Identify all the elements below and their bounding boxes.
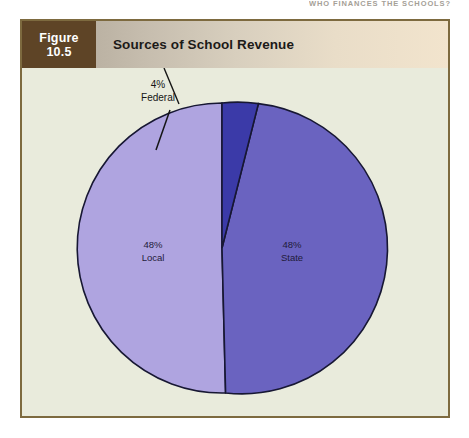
state-value-label: 48% <box>282 239 302 250</box>
figure-number-tag: Figure 10.5 <box>22 21 96 68</box>
state-name-label: State <box>281 252 303 263</box>
figure-tag-number: 10.5 <box>46 45 71 59</box>
figure-title-bar: Sources of School Revenue <box>96 21 448 68</box>
figure-header: Figure 10.5 Sources of School Revenue <box>22 21 448 68</box>
local-value-label: 48% <box>143 239 163 250</box>
running-head: WHO FINANCES THE SCHOOLS? <box>309 0 451 6</box>
figure-title: Sources of School Revenue <box>113 37 294 52</box>
local-name-label: Local <box>142 252 165 263</box>
federal-leader-line <box>164 68 179 104</box>
figure-tag-word: Figure <box>39 31 78 45</box>
chart-plot-area: 4% Federal 48% State 48% Local 4% Federa… <box>22 68 448 416</box>
figure-panel: Figure 10.5 Sources of School Revenue 4%… <box>20 19 450 418</box>
pie-chart: 4% Federal 48% State 48% Local <box>22 68 448 416</box>
